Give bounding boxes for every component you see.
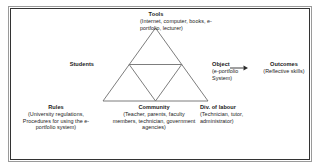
node-outcomes-detail: (Reflective skills) (258, 68, 310, 75)
inner-triangle (129, 65, 182, 102)
node-object: Object (e-portfolio System) (212, 61, 260, 81)
node-division-of-labour-label: Div. of labour (200, 104, 266, 111)
node-rules-detail: (University regulations, Procedures for … (14, 111, 98, 131)
node-tools: Tools (Internet, computer, books, e-port… (118, 11, 194, 31)
node-community-detail: (Teacher, parents, faculty members, tech… (112, 111, 196, 131)
node-tools-label: Tools (118, 11, 194, 18)
node-outcomes: Outcomes (Reflective skills) (258, 61, 310, 75)
node-object-detail: (e-portfolio System) (212, 68, 260, 81)
node-rules: Rules (University regulations, Procedure… (14, 104, 98, 131)
node-students-label: Students (38, 61, 94, 68)
node-division-of-labour: Div. of labour (Technician, tutor, admin… (200, 104, 266, 124)
node-outcomes-label: Outcomes (258, 61, 310, 68)
node-rules-label: Rules (14, 104, 98, 111)
node-object-label: Object (212, 61, 260, 68)
node-division-of-labour-detail: (Technician, tutor, administrator) (200, 111, 266, 124)
node-students: Students (38, 61, 94, 68)
node-community: Community (Teacher, parents, faculty mem… (112, 104, 196, 131)
node-community-label: Community (112, 104, 196, 111)
activity-theory-diagram: Tools (Internet, computer, books, e-port… (0, 0, 320, 168)
node-tools-detail: (Internet, computer, books, e-portfolio,… (140, 18, 216, 31)
